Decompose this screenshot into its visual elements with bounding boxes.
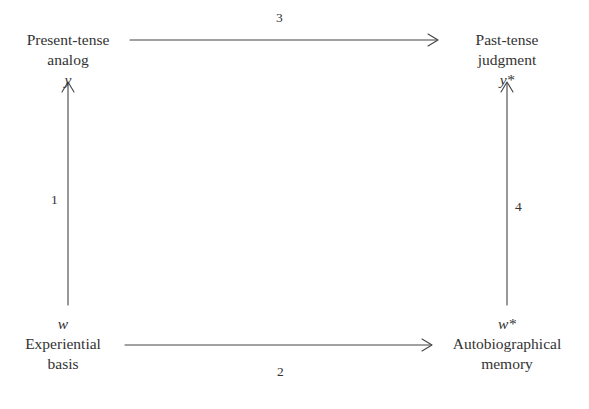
node-variable: w	[6, 314, 120, 334]
node-label-line2: basis	[6, 354, 120, 374]
node-present-tense-analog: Present-tense analog y	[0, 30, 136, 90]
edge-label-1: 1	[51, 192, 58, 208]
node-label-line1: Past-tense	[447, 30, 567, 50]
edge-label-4: 4	[515, 199, 522, 215]
node-variable: y	[0, 70, 136, 90]
node-label-line1: Autobiographical	[437, 334, 577, 354]
node-label-line2: memory	[437, 354, 577, 374]
edge-2-arrow	[125, 339, 432, 351]
node-variable: y*	[447, 70, 567, 90]
node-variable: w*	[437, 314, 577, 334]
node-label-line1: Present-tense	[0, 30, 136, 50]
node-past-tense-judgment: Past-tense judgment y*	[447, 30, 567, 90]
edge-label-3: 3	[276, 10, 283, 26]
edge-1-arrow	[62, 82, 74, 305]
node-label-line2: judgment	[447, 50, 567, 70]
node-label-line1: Experiential	[6, 334, 120, 354]
edge-label-2: 2	[277, 364, 284, 380]
edge-4-arrow	[501, 82, 513, 305]
node-experiential-basis: w Experiential basis	[6, 314, 120, 374]
node-label-line2: analog	[0, 50, 136, 70]
edge-3-arrow	[130, 34, 438, 46]
node-autobiographical-memory: w* Autobiographical memory	[437, 314, 577, 374]
